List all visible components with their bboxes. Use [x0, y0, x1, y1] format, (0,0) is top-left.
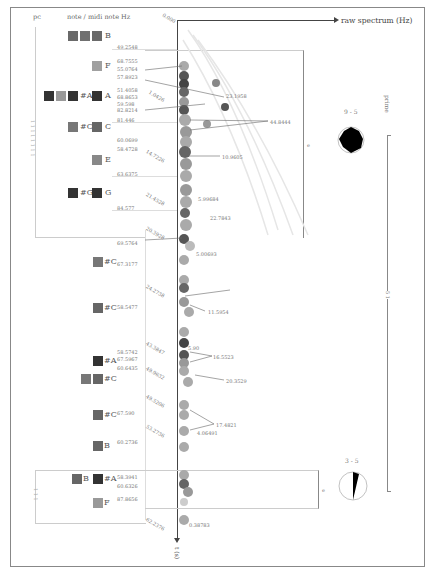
- pitch-class-dial-top: [333, 122, 369, 158]
- dial-top-label: 9 - 5: [344, 108, 357, 115]
- right-bracket: [387, 135, 391, 492]
- right-bracket-label: 5 1: [385, 291, 391, 299]
- prime-label: prime: [384, 95, 391, 113]
- pitch-class-dial-bottom: [335, 468, 371, 504]
- dial-bottom-label: 3 - 5: [345, 457, 358, 464]
